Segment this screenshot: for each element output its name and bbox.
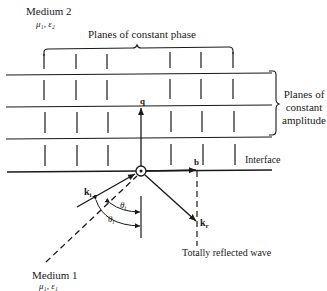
amplitude-brace: [269, 71, 279, 135]
constant-phase-label: Planes of constant phase: [88, 29, 196, 40]
q-label: q: [140, 97, 145, 106]
constant-amplitude-line3: amplitude: [281, 114, 327, 127]
k-r-label: kr: [200, 218, 209, 230]
theta-i-arc: [96, 200, 140, 226]
constant-amplitude-line2: constant: [281, 101, 327, 114]
constant-amplitude-line1: Planes of: [281, 88, 327, 101]
medium2-params: μ₁, ε₂: [36, 20, 55, 29]
medium1-params: μ₁, ε₁: [39, 282, 58, 291]
theta-i-label: θi: [108, 215, 114, 225]
medium2-title: Medium 2: [26, 6, 72, 17]
constant-phase-planes: [44, 52, 235, 166]
b-label: b: [194, 158, 199, 167]
constant-amplitude-planes: [6, 73, 272, 139]
interface-label: Interface: [245, 155, 281, 165]
constant-amplitude-label: Planes of constant amplitude: [281, 88, 327, 127]
k-i-label: ki: [84, 187, 92, 199]
phase-brace: [44, 45, 233, 56]
wave-diagram: [0, 0, 327, 291]
reflected-wave-label: Totally reflected wave: [182, 248, 271, 258]
reflected-k-vector: [145, 175, 196, 221]
diagram-canvas: Medium 2 μ₁, ε₂ Planes of constant phase…: [0, 0, 327, 291]
theta-t-label: θt: [120, 201, 126, 211]
medium1-title: Medium 1: [32, 270, 78, 281]
